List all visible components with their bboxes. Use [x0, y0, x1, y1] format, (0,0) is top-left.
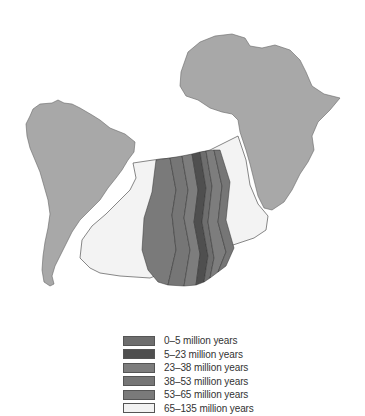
- legend-item: 23–38 million years: [123, 361, 254, 375]
- legend-label: 23–38 million years: [164, 362, 248, 373]
- legend-swatch: [123, 390, 155, 400]
- legend-swatch: [123, 336, 155, 346]
- legend-item: 53–65 million years: [123, 388, 254, 402]
- legend-swatch: [123, 403, 155, 413]
- legend-label: 38–53 million years: [164, 376, 248, 387]
- legend-item: 5–23 million years: [123, 348, 254, 362]
- legend-item: 38–53 million years: [123, 375, 254, 389]
- legend-label: 65–135 million years: [164, 403, 254, 414]
- legend-item: 65–135 million years: [123, 402, 254, 416]
- ridge-age-bands: [142, 150, 234, 286]
- legend: 0–5 million years 5–23 million years 23–…: [123, 334, 254, 415]
- legend-swatch: [123, 363, 155, 373]
- legend-item: 0–5 million years: [123, 334, 254, 348]
- legend-label: 53–65 million years: [164, 389, 248, 400]
- legend-label: 0–5 million years: [164, 335, 237, 346]
- legend-swatch: [123, 376, 155, 386]
- legend-label: 5–23 million years: [164, 349, 243, 360]
- legend-swatch: [123, 349, 155, 359]
- seafloor-age-map: [0, 0, 365, 300]
